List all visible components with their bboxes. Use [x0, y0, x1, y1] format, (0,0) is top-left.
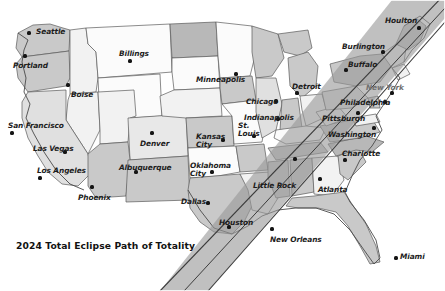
city-marker-detroit [295, 91, 298, 94]
city-marker-dallas [206, 201, 209, 204]
city-label-las-vegas: Las Vegas [33, 145, 74, 153]
city-label-burlington: Burlington [342, 43, 385, 51]
city-marker-phoenix [90, 185, 93, 188]
city-marker-billings [128, 59, 131, 62]
city-label-atlanta: Atlanta [318, 186, 347, 194]
city-label-boise: Boise [71, 91, 93, 99]
city-marker-miami [394, 256, 397, 259]
city-marker-san-francisco [10, 131, 13, 134]
city-label-denver: Denver [140, 140, 169, 148]
city-label-phoenix: Phoenix [78, 194, 111, 202]
city-label-washington: Washington [328, 131, 376, 139]
city-label-los-angeles: Los Angeles [37, 167, 86, 175]
city-marker-new-orleans [270, 227, 273, 230]
city-label-billings: Billings [119, 50, 149, 58]
city-label-houlton: Houlton [385, 17, 417, 25]
city-label-miami: Miami [400, 253, 425, 261]
city-label-seattle: Seattle [36, 28, 65, 36]
city-marker-portland [23, 54, 26, 57]
city-label-philadelphia: Philadelphia [340, 99, 390, 107]
city-label-houston: Houston [219, 219, 253, 227]
city-marker-little-rock [293, 157, 296, 160]
city-label-buffalo: Buffalo [348, 61, 377, 69]
city-label-pittsburgh: Pittsburgh [322, 115, 365, 123]
city-label-dallas: Dallas [181, 198, 206, 206]
city-marker-boise [66, 83, 69, 86]
city-label-indianapolis: Indianapolis [244, 114, 294, 122]
city-marker-seattle [27, 31, 30, 34]
city-label-new-orleans: New Orleans [270, 236, 322, 244]
city-label-detroit: Detroit [292, 83, 321, 91]
city-label-st-louis: St.Louis [238, 122, 259, 138]
city-marker-los-angeles [38, 176, 41, 179]
city-marker-denver [150, 131, 153, 134]
eclipse-map: SeattlePortlandBoiseBillingsSan Francisc… [0, 0, 445, 291]
city-label-portland: Portland [13, 62, 48, 70]
city-marker-charlotte [343, 158, 346, 161]
city-label-kansas-city: KansasCity [196, 133, 225, 149]
city-label-oklahoma-city: OklahomaCity [190, 162, 231, 178]
city-marker-houlton [417, 26, 420, 29]
map-caption: 2024 Total Eclipse Path of Totality [16, 240, 195, 251]
city-label-little-rock: Little Rock [253, 182, 296, 190]
city-marker-atlanta [318, 177, 321, 180]
city-label-new-york: New York [366, 84, 404, 92]
city-label-albuquerque: Albuquerque [119, 164, 171, 172]
city-label-charlotte: Charlotte [342, 150, 380, 158]
city-label-minneapolis: Minneapolis [196, 76, 245, 84]
city-label-san-francisco: San Francisco [8, 122, 64, 130]
city-label-chicago: Chicago [246, 98, 278, 106]
